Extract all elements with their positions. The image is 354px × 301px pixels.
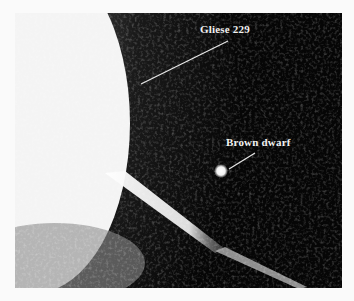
brown-dwarf-dot (214, 164, 228, 178)
star-field-graphic (15, 13, 342, 288)
gliese-229-label: Gliese 229 (200, 23, 250, 35)
brown-dwarf-label: Brown dwarf (226, 136, 291, 148)
astronomy-image (15, 13, 342, 288)
